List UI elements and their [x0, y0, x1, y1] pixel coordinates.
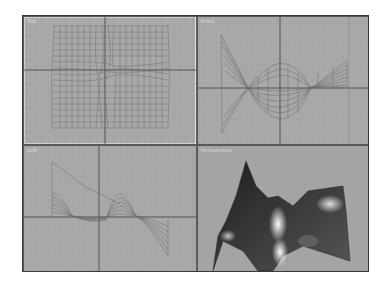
top-view-wireframe: [24, 17, 196, 144]
viewport-top[interactable]: Top: [24, 17, 196, 144]
viewport-label-left[interactable]: Left: [27, 147, 37, 153]
viewport-label-top[interactable]: Top: [27, 18, 36, 24]
viewport-front[interactable]: Front: [198, 17, 368, 144]
left-view-wireframe: [24, 146, 196, 271]
viewport-layout: Top: [22, 15, 369, 272]
front-view-wireframe: [198, 17, 368, 144]
viewport-perspective[interactable]: Perspective: [198, 146, 368, 271]
viewport-left[interactable]: Left: [24, 146, 196, 271]
viewport-label-perspective[interactable]: Perspective: [201, 147, 232, 153]
perspective-shaded-surface: [198, 146, 368, 271]
viewport-label-front[interactable]: Front: [201, 18, 215, 24]
